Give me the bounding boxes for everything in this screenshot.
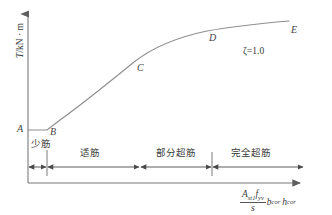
x-axis-fraction-numerator: Ast1fyv bbox=[240, 190, 266, 203]
point-label-B: B bbox=[50, 127, 56, 137]
torsion-capacity-figure: T/kN · m A B C D E ζ=1.0 少筋 适筋 部分超筋 完全超筋… bbox=[0, 0, 332, 215]
point-label-D: D bbox=[209, 33, 216, 43]
x-axis-f-subscript: yv bbox=[258, 194, 264, 201]
y-axis-label-var: T bbox=[15, 53, 25, 58]
x-axis-fraction-denominator: s bbox=[251, 203, 255, 214]
point-label-E: E bbox=[291, 25, 297, 35]
zone-label-shao-jin: 少筋 bbox=[31, 139, 51, 149]
zone-label-wanquan-chaojin: 完全超筋 bbox=[231, 148, 271, 158]
x-axis-h-subscript: cor bbox=[287, 198, 296, 205]
x-axis-label: Ast1fyv s bcorhcor bbox=[240, 190, 296, 214]
zone-label-bufen-chaojin: 部分超筋 bbox=[156, 148, 196, 158]
y-axis-label: T/kN · m bbox=[16, 23, 26, 58]
zone-label-shi-jin: 适筋 bbox=[80, 148, 100, 158]
x-axis-b-subscript: cor bbox=[272, 198, 281, 205]
y-axis-label-units: /kN · m bbox=[15, 23, 25, 53]
point-label-A: A bbox=[17, 124, 23, 134]
figure-canvas bbox=[0, 0, 332, 215]
zeta-annotation: ζ=1.0 bbox=[243, 47, 264, 57]
point-label-C: C bbox=[137, 63, 144, 73]
x-axis-fraction: Ast1fyv s bbox=[240, 190, 266, 214]
torsion-capacity-curve-path bbox=[28, 21, 289, 130]
